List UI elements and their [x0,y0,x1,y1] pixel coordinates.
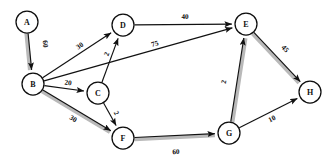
edge-highlight-layer [26,34,299,140]
node-circle-f[interactable] [112,127,134,149]
node-e[interactable]: E [235,13,257,35]
node-b[interactable]: B [22,73,44,95]
edge-weight-e-h: 45 [280,44,291,55]
node-layer: ABCDEFGH [16,11,321,149]
edge-d-e [134,24,231,25]
node-circle-d[interactable] [112,14,134,36]
edge-weight-b-e: 75 [150,39,159,49]
node-a[interactable]: A [16,11,38,33]
edge-weight-g-h: 10 [267,114,277,125]
node-circle-e[interactable] [235,13,257,35]
node-circle-b[interactable] [22,73,44,95]
edge-weight-a-b: 60 [41,40,50,48]
edge-highlight-f-g [135,136,215,140]
node-g[interactable]: G [218,122,240,144]
node-circle-c[interactable] [87,82,109,104]
edge-c-f [104,103,117,126]
node-c[interactable]: C [87,82,109,104]
edge-weight-d-e: 40 [181,13,189,21]
edge-weight-c-d: 2 [103,51,112,58]
graph-diagram: 603020307522406021045 ABCDEFGH [0,0,336,163]
node-circle-h[interactable] [299,81,321,103]
edge-weight-b-c: 20 [64,79,73,88]
graph-svg: 603020307522406021045 ABCDEFGH [0,0,336,163]
edge-g-h [239,98,297,127]
edge-weight-g-e: 2 [220,79,229,84]
edge-weight-c-f: 2 [112,109,121,116]
edge-weight-f-g: 60 [172,148,180,156]
edge-e-h [254,32,300,81]
edge-g-e [231,38,244,122]
edge-b-c [44,86,84,91]
edge-b-d [43,33,112,78]
node-h[interactable]: H [299,81,321,103]
node-circle-g[interactable] [218,122,240,144]
edge-highlight-e-h [252,34,298,83]
edge-highlight-g-e [233,38,246,122]
node-circle-a[interactable] [16,11,38,33]
edge-weight-b-d: 30 [75,40,86,51]
edge-b-e [44,28,232,81]
node-f[interactable]: F [112,127,134,149]
node-d[interactable]: D [112,14,134,36]
edge-weight-b-f: 30 [68,114,79,125]
